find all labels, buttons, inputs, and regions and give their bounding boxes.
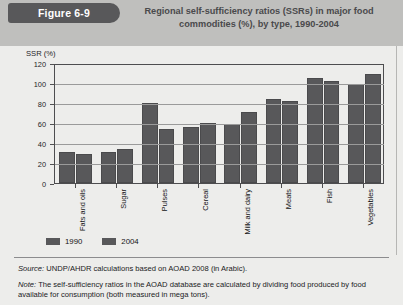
x-tick-mark (240, 184, 241, 188)
bar (224, 124, 240, 183)
legend-label: 1990 (65, 237, 82, 246)
figure-page: Figure 6-9 Regional self-sufficiency rat… (0, 0, 403, 305)
x-category-label: Fats and oils (78, 189, 87, 231)
y-tick-label: 0 (42, 180, 46, 189)
y-tick-label: 80 (38, 100, 46, 109)
x-category-label: Meats (284, 189, 293, 209)
x-category-label: Vegetables (366, 189, 375, 226)
bar (59, 152, 75, 183)
legend-item: 1990 (46, 237, 82, 246)
x-tick-mark (116, 184, 117, 188)
y-tick-label: 40 (38, 140, 46, 149)
legend-swatch (102, 238, 116, 245)
figure-footer: Source: UNDP/AHDR calculations based on … (0, 255, 403, 305)
bar (183, 127, 199, 183)
bar (307, 78, 323, 183)
bar (76, 154, 92, 183)
legend-item: 2004 (102, 237, 138, 246)
bar (200, 123, 216, 183)
x-category-label: Sugar (119, 189, 128, 209)
x-axis-category-labels: Fats and oilsSugarPulsesCerealMilk and d… (54, 184, 384, 242)
figure-number-tab: Figure 6-9 (8, 3, 120, 23)
bar (159, 129, 175, 183)
explanatory-note: Note: The self-sufficiency ratios in the… (18, 280, 381, 300)
note-text: The self-sufficiency ratios in the AOAD … (18, 280, 366, 299)
y-tick-label: 20 (38, 160, 46, 169)
bar (101, 152, 117, 183)
legend-swatch (46, 238, 60, 245)
y-axis-tick-labels: 020406080100120 (28, 64, 50, 184)
gridline (55, 124, 384, 125)
x-category-label: Fish (325, 189, 334, 203)
legend-label: 2004 (121, 237, 138, 246)
gridline (55, 164, 384, 165)
x-tick-mark (281, 184, 282, 188)
page-right-rule (396, 46, 397, 256)
x-tick-mark (75, 184, 76, 188)
y-tick-label: 120 (34, 60, 46, 69)
y-tick-label: 60 (38, 120, 46, 129)
source-label: Source: (18, 264, 44, 273)
figure-number-label: Figure 6-9 (38, 7, 90, 19)
bar (266, 99, 282, 183)
figure-title: Regional self-sufficiency ratios (SSRs) … (128, 5, 390, 30)
x-tick-mark (198, 184, 199, 188)
x-category-label: Pulses (160, 189, 169, 211)
bar (282, 101, 298, 183)
figure-header-band: Figure 6-9 Regional self-sufficiency rat… (0, 0, 403, 46)
bar (324, 81, 340, 183)
gridline (55, 104, 384, 105)
chart-panel: SSR (%) 020406080100120 Fats and oilsSug… (0, 46, 403, 255)
source-text: UNDP/AHDR calculations based on AOAD 200… (44, 264, 247, 273)
x-tick-mark (363, 184, 364, 188)
bar (348, 84, 364, 183)
source-note: Source: UNDP/AHDR calculations based on … (18, 264, 381, 274)
x-category-label: Milk and dairy (243, 189, 252, 235)
bar (241, 112, 257, 183)
gridline (55, 144, 384, 145)
y-axis-title: SSR (%) (26, 49, 56, 58)
y-tick-label: 100 (34, 80, 46, 89)
x-tick-mark (157, 184, 158, 188)
chart-legend: 19902004 (46, 237, 139, 246)
bar (117, 149, 133, 183)
gridline (55, 84, 384, 85)
x-tick-mark (322, 184, 323, 188)
bar (365, 74, 381, 183)
footer-divider (14, 257, 389, 258)
note-label: Note: (18, 280, 36, 289)
x-category-label: Cereal (201, 189, 210, 211)
bar (142, 103, 158, 183)
plot-wrapper: 020406080100120 (28, 64, 388, 184)
plot-area (54, 64, 384, 184)
